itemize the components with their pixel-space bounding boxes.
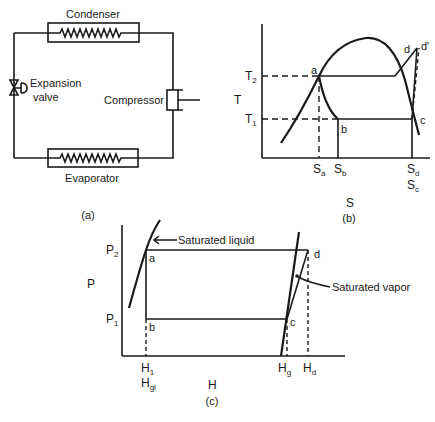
ph-x-axis-label: H — [208, 378, 217, 392]
ts-tick-t1: T1 — [245, 112, 257, 128]
ph-y-axis-label: P — [87, 277, 95, 291]
ts-compression-line — [412, 48, 417, 158]
figure-a-caption: (a) — [81, 209, 94, 221]
ph-point-d: d — [314, 248, 320, 260]
ph-tick-hd: Hd — [303, 361, 316, 377]
evaporator-coil-icon — [48, 154, 138, 162]
circuit-diagram: Condenser Evaporator Compressor Expansio… — [10, 8, 200, 221]
ts-point-a: a — [311, 64, 318, 76]
circuit-wire-top-right — [139, 33, 173, 90]
ts-point-b: b — [341, 123, 347, 135]
figure-c-caption: (c) — [206, 395, 219, 407]
expansion-valve: Expansion valve — [10, 77, 81, 103]
ph-tick-p2: P2 — [106, 243, 119, 259]
figure-b-caption: (b) — [342, 212, 355, 224]
compressor-piston-icon — [178, 90, 200, 110]
ph-compression-line — [287, 250, 308, 319]
compressor-label: Compressor — [104, 94, 164, 106]
evaporator: Evaporator — [48, 149, 138, 184]
saturated-liquid-arrow-icon — [154, 236, 177, 244]
ph-tick-hg: Hg — [278, 361, 291, 377]
ts-point-c: c — [420, 114, 426, 126]
ph-tick-h1: H1 — [141, 361, 155, 377]
ph-point-b: b — [149, 321, 155, 333]
ts-expansion-curve — [319, 76, 338, 119]
saturated-vapor-leader — [298, 277, 330, 287]
compressor: Compressor — [104, 90, 200, 110]
condenser-label: Condenser — [66, 8, 120, 20]
refrigeration-cycle-figure: Condenser Evaporator Compressor Expansio… — [0, 0, 435, 422]
saturated-vapor-marker — [295, 274, 299, 278]
ts-point-d-prime: d' — [421, 40, 429, 52]
ph-tick-hgl: Hgl — [141, 376, 156, 392]
ts-y-axis-label: T — [234, 93, 242, 107]
ph-saturated-liquid-curve — [129, 220, 160, 308]
expansion-valve-label-line2: valve — [33, 91, 59, 103]
condenser-coil-icon — [48, 29, 139, 37]
ts-tick-sd: Sd — [407, 162, 419, 178]
ph-point-a: a — [149, 252, 156, 264]
ph-diagram: Saturated liquid Saturated vapor P2 P1 P… — [87, 220, 411, 407]
ts-tick-sa: Sa — [313, 162, 326, 178]
ts-diagram: T2 T1 T Sa Sb Sd Sc S (b) a b c d d' — [234, 24, 430, 224]
ts-x-axis-label: S — [346, 196, 354, 210]
expansion-valve-icon — [10, 80, 27, 95]
ph-point-c: c — [290, 316, 296, 328]
ts-point-d: d — [404, 43, 410, 55]
ts-tick-sc: Sc — [407, 178, 419, 194]
circuit-wire-right-lower — [138, 110, 173, 158]
evaporator-label: Evaporator — [65, 172, 119, 184]
expansion-valve-label-line1: Expansion — [30, 77, 81, 89]
ph-tick-p1: P1 — [106, 312, 119, 328]
compressor-cylinder — [167, 90, 178, 110]
ts-tick-t2: T2 — [245, 69, 257, 85]
saturated-vapor-label: Saturated vapor — [332, 281, 411, 293]
ts-tick-sb: Sb — [334, 162, 347, 178]
saturated-liquid-label: Saturated liquid — [178, 234, 254, 246]
ts-saturation-dome — [281, 38, 419, 143]
condenser: Condenser — [48, 8, 139, 42]
